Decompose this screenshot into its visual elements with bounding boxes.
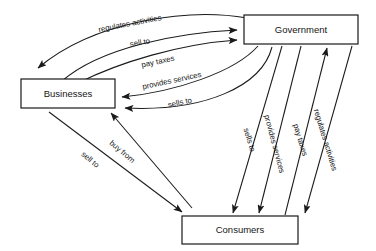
edge-businesses-sell-to-consumers xyxy=(49,112,182,212)
edge-label-regulates-activities-consumers: regulates activities xyxy=(312,108,339,172)
edge-path-regulates-activities-consumers xyxy=(305,46,352,213)
node-businesses-label: Businesses xyxy=(44,88,93,99)
edge-gov-regulates-consumers xyxy=(305,46,352,213)
edge-label-provides-services-consumers: provides services xyxy=(262,114,286,175)
edge-label-pay-taxes-gov: pay taxes xyxy=(141,54,176,70)
node-businesses[interactable]: Businesses xyxy=(21,79,115,108)
node-government[interactable]: Government xyxy=(244,15,358,44)
edge-label-sell-to-gov: sell to xyxy=(129,36,151,49)
edge-label-sells-to-consumers: sells to xyxy=(242,127,258,153)
edge-label-sell-to-consumers: sell to xyxy=(80,150,102,170)
edge-label-buy-from-businesses: buy from xyxy=(108,138,137,164)
node-consumers[interactable]: Consumers xyxy=(182,216,298,244)
edge-consumers-buy-from-businesses xyxy=(111,113,192,208)
flow-diagram-canvas: regulates activities sell to pay taxes p… xyxy=(0,0,376,251)
edge-path-sell-to-consumers xyxy=(49,112,182,212)
node-government-label: Government xyxy=(275,24,328,35)
node-consumers-label: Consumers xyxy=(216,224,265,235)
edge-path-buy-from-businesses xyxy=(111,113,192,208)
flow-diagram: regulates activities sell to pay taxes p… xyxy=(0,0,376,251)
edge-label-sells-to-businesses: sells to xyxy=(167,96,193,110)
edge-label-regulates-activities-businesses: regulates activities xyxy=(98,13,163,34)
